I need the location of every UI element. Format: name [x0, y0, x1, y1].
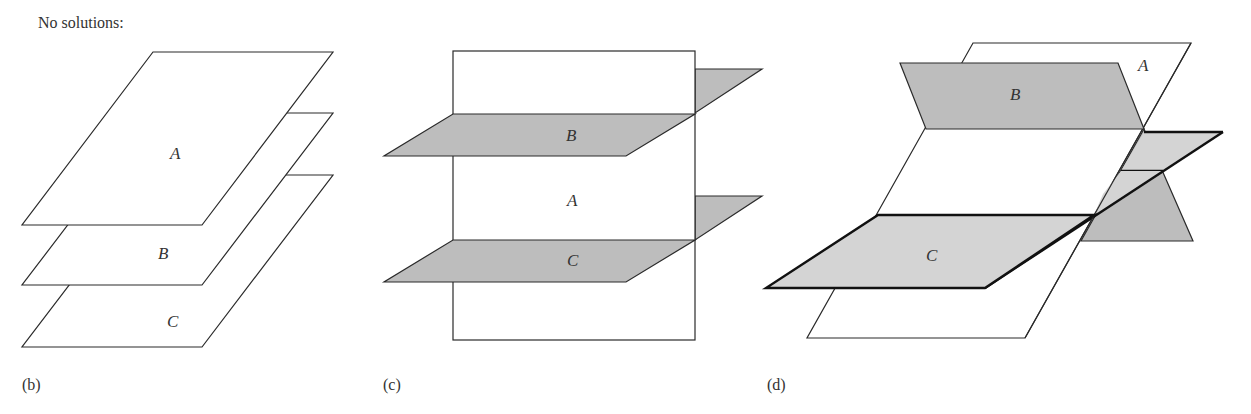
figure-b-label-c: C: [167, 312, 179, 331]
figure-c-label-c: C: [567, 251, 579, 270]
figure-c-caption: (c): [383, 376, 401, 394]
figure-d-label-b: B: [1010, 85, 1021, 104]
figure-b: A B C: [22, 52, 333, 347]
figure-d-caption: (d): [767, 376, 786, 394]
figure-c-plane-b-back: [695, 69, 762, 113]
planes-diagram: A B C B A C A B: [0, 0, 1251, 414]
figure-c-plane-c-back: [695, 196, 762, 240]
figure-b-caption: (b): [22, 376, 41, 394]
figure-b-label-a: A: [169, 144, 181, 163]
figure-c-label-a: A: [566, 191, 578, 210]
figure-d-plane-b: [900, 63, 1144, 129]
figure-c-label-b: B: [566, 126, 577, 145]
figure-b-label-b: B: [158, 244, 169, 263]
figure-d: A B C: [766, 43, 1223, 338]
figure-d-label-a: A: [1137, 56, 1149, 75]
figure-c: B A C: [384, 51, 762, 340]
figure-d-label-c: C: [926, 246, 938, 265]
